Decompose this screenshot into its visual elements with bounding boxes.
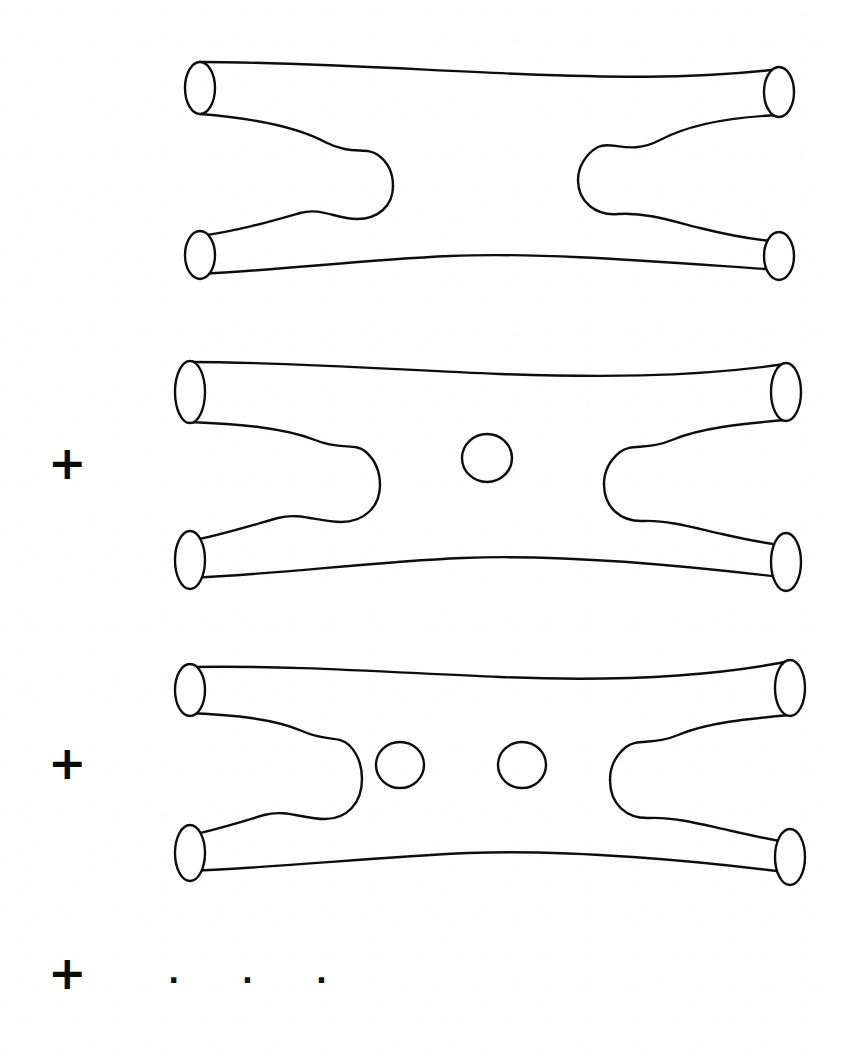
- tube-cap-lower-right: [764, 232, 794, 280]
- handle-hole-2: [498, 742, 546, 788]
- tube-cap-upper-left: [185, 62, 215, 114]
- figure-canvas: + + + · · ·: [0, 0, 841, 1057]
- plus-operator-2: +: [48, 740, 87, 786]
- tube-cap-lower-right: [771, 533, 801, 591]
- handle-hole-1: [462, 434, 512, 482]
- worldsheet-panel-genus-0: [0, 0, 841, 320]
- tube-cap-upper-right: [764, 67, 794, 117]
- tube-cap-lower-left: [175, 825, 205, 881]
- worldsheet-panel-genus-2: [0, 605, 841, 925]
- tube-cap-upper-left: [175, 664, 205, 716]
- worldsheet-panel-genus-1: [0, 300, 841, 620]
- plus-operator-3: +: [48, 950, 87, 996]
- tube-cap-upper-left: [175, 361, 205, 423]
- handle-hole-1: [376, 742, 424, 788]
- tube-cap-lower-right: [775, 829, 805, 885]
- tube-cap-upper-right: [775, 660, 805, 716]
- tube-cap-lower-left: [175, 531, 205, 589]
- tube-cap-upper-right: [771, 363, 801, 421]
- ellipsis-continuation: · · ·: [168, 966, 353, 996]
- tube-cap-lower-left: [185, 231, 215, 279]
- plus-operator-1: +: [48, 440, 87, 486]
